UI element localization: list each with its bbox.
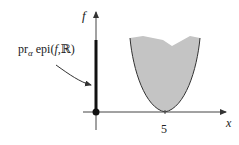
annotation-set: ℝ xyxy=(61,42,71,56)
annotation-prefix: pr xyxy=(18,42,28,56)
diagram-canvas xyxy=(0,0,239,145)
x-axis-label: x xyxy=(226,116,231,131)
x-tick-label: 5 xyxy=(161,122,167,137)
annotation-close: ) xyxy=(71,42,75,56)
annotation-text: epi( xyxy=(33,42,55,56)
origin-point xyxy=(93,109,100,116)
annotation-arrow xyxy=(56,65,91,85)
projection-annotation: prα epi(f,ℝ) xyxy=(18,42,75,58)
y-axis-label: f xyxy=(82,8,86,24)
epigraph-region xyxy=(130,36,200,112)
